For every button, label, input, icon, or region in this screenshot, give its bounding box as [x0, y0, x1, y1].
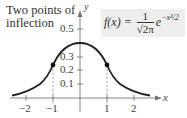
inflection-point-right	[105, 63, 110, 68]
formula-numerator: 1	[137, 11, 154, 23]
inflection-point-left	[51, 63, 56, 68]
formula-fraction: 1 √2π	[137, 11, 154, 35]
formula-label: f(x) = 1 √2π e−x²/2	[104, 11, 179, 35]
x-tick-label: 1	[104, 102, 110, 114]
y-tick-label: 0.3	[60, 50, 74, 62]
y-tick-label: 0.5	[60, 22, 74, 34]
x-tick-label: −1	[46, 102, 58, 114]
y-tick-label: 0.1	[60, 77, 74, 89]
normal-curve	[12, 43, 150, 96]
formula-denominator: √2π	[137, 23, 154, 35]
formula-exponent: −x²/2	[161, 13, 179, 22]
y-tick-label: 0.2	[60, 63, 74, 75]
y-axis-arrow-icon	[78, 10, 83, 17]
x-tick-label: 2	[131, 102, 137, 114]
y-axis-label: y	[84, 1, 88, 12]
formula-lhs: f(x) =	[104, 15, 132, 29]
x-axis-label: x	[163, 91, 168, 103]
x-axis-arrow-icon	[155, 96, 162, 101]
x-tick-label: −2	[19, 102, 31, 114]
